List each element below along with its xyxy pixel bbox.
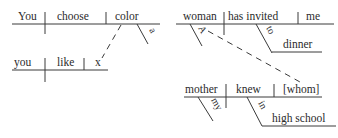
verb-word: has invited: [228, 10, 278, 22]
object-word: color: [115, 10, 139, 22]
verb-word: knew: [236, 83, 262, 95]
object-word: x: [95, 56, 101, 68]
relative-connector-dashed: [102, 25, 121, 58]
diagram-svg: You choose color a you like x woman has …: [0, 0, 338, 138]
preposition-word: to: [264, 24, 277, 36]
prep-object-word: high school: [272, 112, 325, 125]
modifier-slant: [137, 24, 148, 44]
sentence-diagrams: You choose color a you like x woman has …: [0, 0, 338, 138]
subject-modifier-word: A: [196, 24, 209, 36]
verb-word: like: [57, 56, 74, 68]
subject-word: woman: [183, 10, 217, 22]
prep-object-word: dinner: [283, 38, 313, 50]
diagram1-relative-clause: you like x: [12, 56, 108, 82]
object-word: me: [306, 10, 320, 22]
verb-word: choose: [57, 10, 89, 22]
subject-modifier-word: my: [209, 96, 225, 113]
subject-word: you: [14, 56, 32, 69]
subject-word: mother: [185, 83, 218, 95]
diagram1-main-clause: You choose color a: [12, 10, 160, 44]
diagram2-main-clause: woman has invited me A to dinner: [176, 10, 334, 53]
modifier-word: a: [147, 26, 159, 36]
object-word: [whom]: [283, 83, 319, 95]
preposition-word: in: [256, 99, 269, 111]
diagram2-relative-clause: mother knew [whom] my in high school: [184, 83, 336, 126]
subject-word: You: [18, 10, 37, 22]
